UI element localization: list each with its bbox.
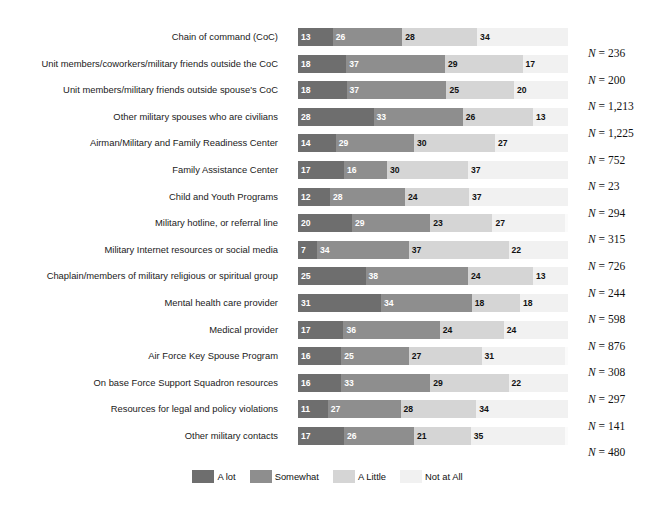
stacked-bar: 12282437 [298, 188, 568, 206]
bar-segment: 18 [520, 294, 568, 312]
bar-segment: 27 [328, 400, 401, 418]
bar-segment-value: 29 [355, 214, 365, 232]
bar-segment: 37 [469, 188, 568, 206]
legend-item[interactable]: A lot [192, 470, 249, 483]
bar-segment-value: 18 [475, 294, 485, 312]
chart-row: Other military spouses who are civilians… [0, 108, 669, 126]
bar-segment-value: 37 [471, 161, 481, 179]
row-category-label: Medical provider [0, 321, 288, 339]
bar-segment: 30 [387, 161, 468, 179]
bar-segment-value: 33 [377, 108, 387, 126]
bar-segment: 17 [298, 321, 343, 339]
bar-segment-value: 24 [507, 321, 517, 339]
bar-segment: 28 [401, 400, 477, 418]
bar-segment-value: 11 [301, 400, 310, 418]
row-category-label: Other military spouses who are civilians [0, 108, 288, 126]
bar-segment: 13 [533, 267, 568, 285]
bar-segment-value: 22 [512, 241, 522, 259]
bar-segment-value: 26 [466, 108, 476, 126]
stacked-bar: 14293027 [298, 134, 568, 152]
row-category-label: Mental health care provider [0, 294, 288, 312]
stacked-bar: 18372520 [298, 81, 568, 99]
row-category-label: Unit members/military friends outside sp… [0, 81, 288, 99]
bar-segment-value: 20 [517, 81, 527, 99]
bar-segment: 21 [414, 427, 471, 445]
row-category-label: On base Force Support Squadron resources [0, 374, 288, 392]
sample-size-value: 480 [608, 446, 625, 458]
bar-segment: 34 [476, 400, 568, 418]
row-category-label: Family Assistance Center [0, 161, 288, 179]
bar-segment: 17 [298, 161, 344, 179]
legend-item[interactable]: A Little [333, 470, 400, 483]
bar-segment: 37 [409, 241, 509, 259]
stacked-bar: 13262834 [298, 28, 568, 46]
bar-segment-value: 28 [301, 108, 311, 126]
bar-segment: 25 [446, 81, 514, 99]
bar-segment-value: 18 [301, 55, 311, 73]
bar-segment-value: 37 [350, 81, 360, 99]
stacked-bar: 7343722 [298, 241, 568, 259]
bar-segment-value: 20 [301, 214, 311, 232]
bar-segment-value: 26 [336, 28, 346, 46]
bar-segment: 26 [344, 427, 414, 445]
bar-segment-value: 23 [433, 214, 443, 232]
row-category-label: Military Internet resources or social me… [0, 241, 288, 259]
bar-segment: 23 [430, 214, 492, 232]
bar-segment: 35 [471, 427, 566, 445]
chart-legend: A lotSomewhatA LittleNot at All [0, 470, 669, 483]
bar-segment: 17 [298, 427, 344, 445]
sample-size-label: N = 480 [588, 443, 625, 461]
bar-segment-value: 17 [526, 55, 536, 73]
bar-segment-value: 16 [301, 374, 311, 392]
chart-row: Airman/Military and Family Readiness Cen… [0, 134, 669, 152]
stacked-bar: 17362424 [298, 321, 568, 339]
bar-segment-value: 37 [349, 55, 359, 73]
bar-segment-value: 37 [412, 241, 422, 259]
legend-label: A Little [355, 471, 400, 482]
chart-row: Chaplain/members of military religious o… [0, 267, 669, 285]
chart-row: Mental health care provider31341818N = 5… [0, 294, 669, 312]
bar-segment-value: 29 [448, 55, 458, 73]
legend-label: Somewhat [272, 471, 333, 482]
legend-swatch-icon [250, 470, 272, 483]
legend-item[interactable]: Not at All [400, 470, 477, 483]
bar-segment-value: 31 [485, 347, 495, 365]
bar-segment: 31 [298, 294, 381, 312]
stacked-bar: 16332922 [298, 374, 568, 392]
bar-segment: 14 [298, 134, 336, 152]
bar-segment: 18 [298, 55, 346, 73]
bar-segment: 29 [445, 55, 523, 73]
bar-segment-value: 16 [301, 347, 311, 365]
bar-segment-value: 30 [417, 134, 427, 152]
bar-segment: 25 [341, 347, 409, 365]
chart-row: Military Internet resources or social me… [0, 241, 669, 259]
bar-segment: 7 [298, 241, 317, 259]
bar-segment-value: 25 [344, 347, 354, 365]
row-category-label: Air Force Key Spouse Program [0, 347, 288, 365]
bar-segment-value: 25 [449, 81, 459, 99]
bar-segment-value: 35 [474, 427, 484, 445]
row-category-label: Child and Youth Programs [0, 188, 288, 206]
bar-segment: 13 [533, 108, 568, 126]
row-category-label: Other military contacts [0, 427, 288, 445]
row-category-label: Unit members/coworkers/military friends … [0, 55, 288, 73]
bar-segment-value: 33 [344, 374, 354, 392]
bar-segment: 34 [477, 28, 568, 46]
legend-item[interactable]: Somewhat [250, 470, 333, 483]
bar-segment: 29 [352, 214, 430, 232]
bar-segment-value: 29 [433, 374, 443, 392]
bar-segment: 27 [492, 214, 565, 232]
bar-segment: 30 [414, 134, 495, 152]
chart-row: Other military contacts17262135N = 480 [0, 427, 669, 445]
chart-row: Air Force Key Spouse Program16252731N = … [0, 347, 669, 365]
bar-segment-value: 34 [320, 241, 330, 259]
bar-segment: 29 [336, 134, 414, 152]
bar-segment: 24 [405, 188, 469, 206]
bar-segment-value: 27 [495, 214, 505, 232]
bar-segment-value: 34 [384, 294, 394, 312]
chart-row: Family Assistance Center17163037N = 23 [0, 161, 669, 179]
bar-segment: 12 [298, 188, 330, 206]
row-category-label: Airman/Military and Family Readiness Cen… [0, 134, 288, 152]
bar-segment-value: 18 [301, 81, 311, 99]
chart-row: Unit members/coworkers/military friends … [0, 55, 669, 73]
